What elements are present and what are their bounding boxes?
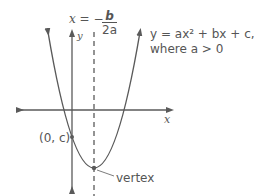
fraction: b 2a — [102, 10, 117, 36]
y-axis-label: y — [77, 31, 83, 41]
fraction-numerator: b — [102, 10, 117, 23]
y-intercept-label: (0, c) — [39, 132, 70, 144]
vertex-label: vertex — [116, 172, 154, 184]
vertex-point — [92, 166, 96, 170]
axis-of-symmetry-label: x = − — [69, 13, 104, 25]
equation-line-2: where a > 0 — [150, 43, 223, 55]
fraction-denominator: 2a — [102, 23, 117, 36]
y-intercept-point — [70, 135, 74, 139]
axis-lhs-text: x = − — [69, 12, 104, 26]
parabola-diagram: x = − b 2a y x y = ax² + bx + c, where a… — [0, 0, 254, 196]
vertex-leader — [97, 170, 114, 176]
equation-line-1: y = ax² + bx + c, — [150, 28, 254, 40]
x-axis-label: x — [164, 114, 170, 125]
